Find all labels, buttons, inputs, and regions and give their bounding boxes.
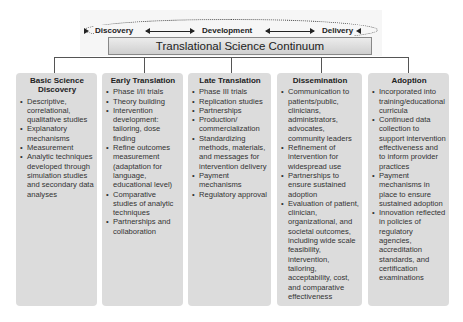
list-item: Continued data collection to support int… xyxy=(372,115,446,171)
stage-title: Basic Science Discovery xyxy=(20,76,94,95)
connector-vertical xyxy=(54,57,55,73)
double-arrow-icon xyxy=(266,31,314,32)
list-item: Descriptive, correlational, qualitative … xyxy=(20,97,94,125)
stage-adoption: Adoption Incorporated into training/educ… xyxy=(368,73,449,306)
list-item: Innovation reflected in policies of regu… xyxy=(372,208,446,282)
list-item: Partnerships xyxy=(192,106,268,115)
list-item: Measurement xyxy=(20,143,94,152)
list-item: Communication to patients/public, clinic… xyxy=(281,87,359,143)
stage-items: Communication to patients/public, clinic… xyxy=(281,87,359,301)
list-item: Explanatory mechanisms xyxy=(20,124,94,143)
list-item: Theory building xyxy=(106,97,180,106)
list-item: Incorporated into training/educational c… xyxy=(372,87,446,115)
list-item: Analytic techniques developed through si… xyxy=(20,152,94,198)
phase-development: Development xyxy=(201,25,253,37)
stage-title: Late Translation xyxy=(192,76,268,85)
list-item: Refinement of intervention for widesprea… xyxy=(281,143,359,171)
list-item: Payment mechanisms xyxy=(192,171,268,190)
list-item: Comparative studies of analytic techniqu… xyxy=(106,190,180,218)
connector-vertical xyxy=(144,57,145,73)
list-item: Evaluation of patient, clinician, organi… xyxy=(281,199,359,301)
stage-items: Incorporated into training/educational c… xyxy=(372,87,446,282)
stage-early-translation: Early Translation Phase I/II trials Theo… xyxy=(102,73,183,306)
double-arrow-icon xyxy=(146,31,194,32)
list-item: Replication studies xyxy=(192,97,268,106)
list-item: Regulatory approval xyxy=(192,190,268,199)
list-item: Refine outcomes measurement (adaptation … xyxy=(106,143,180,189)
phase-discovery: Discovery xyxy=(94,25,134,37)
right-cycle-arrow-icon xyxy=(356,28,361,34)
list-item: Phase I/II trials xyxy=(106,87,180,96)
list-item: Production/ commercialization xyxy=(192,115,268,134)
stage-basic-science-discovery: Basic Science Discovery Descriptive, cor… xyxy=(16,73,97,306)
stage-items: Descriptive, correlational, qualitative … xyxy=(20,97,94,199)
phase-row: Discovery Development Delivery xyxy=(84,25,378,37)
list-item: Phase III trials xyxy=(192,87,268,96)
connector-vertical xyxy=(321,57,322,73)
stage-title: Early Translation xyxy=(106,76,180,85)
list-item: Intervention development: tailoring, dos… xyxy=(106,106,180,143)
connector-vertical xyxy=(408,57,409,73)
stage-items: Phase III trials Replication studies Par… xyxy=(192,87,268,199)
stage-title: Dissemination xyxy=(281,76,359,85)
list-item: Standardizing methods, materials, and me… xyxy=(192,134,268,171)
continuum-bar: Translational Science Continuum xyxy=(108,37,372,55)
list-item: Partnerships and collaboration xyxy=(106,217,180,236)
phase-delivery: Delivery xyxy=(321,25,354,37)
list-item: Payment mechanisms in place to ensure su… xyxy=(372,171,446,208)
stage-title: Adoption xyxy=(372,76,446,85)
stage-dissemination: Dissemination Communication to patients/… xyxy=(277,73,362,306)
stage-items: Phase I/II trials Theory building Interv… xyxy=(106,87,180,236)
connector-vertical xyxy=(231,57,232,73)
left-cycle-arrow-icon xyxy=(84,28,89,34)
stage-late-translation: Late Translation Phase III trials Replic… xyxy=(188,73,271,306)
list-item: Partnerships to ensure sustained adoptio… xyxy=(281,171,359,199)
